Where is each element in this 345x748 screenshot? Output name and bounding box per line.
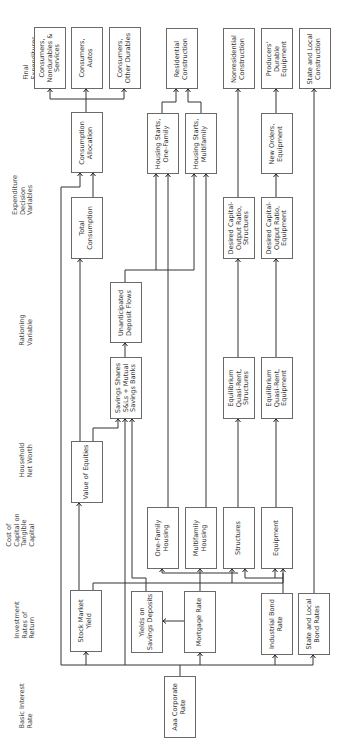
node-label: Desired Capital- Output Ratio, Equipment <box>266 202 289 255</box>
level-label: Cost of Capital on Tangible Capital <box>6 513 36 546</box>
level-label: Basic Interest Rate <box>19 684 34 729</box>
node-yields-on-savings-deposits: Yields on Savings Deposits <box>131 591 163 653</box>
node-label: State and Local Construction <box>307 33 322 84</box>
node-stock-market-yield: Stock Market Yield <box>70 590 102 652</box>
node-housing-starts-one-family: Housing Starts, One-Family <box>147 113 179 174</box>
node-equilibrium-quasi-rent-structures: Equilibrium Quasi-Rent, Structures <box>223 357 255 419</box>
node-structures: Structures <box>223 507 255 569</box>
node-label: Consumers, Autos <box>79 38 94 77</box>
node-equilibrium-quasi-rent-equipment: Equilibrium Quasi-Rent, Equipment <box>261 357 293 419</box>
node-label: Yields on Savings Deposits <box>139 594 154 651</box>
node-label: Nonresidential Construction <box>231 35 246 83</box>
level-basic-interest-rate: Basic Interest Rate <box>10 676 44 736</box>
node-housing-starts-multifamily: Housing Starts, Multifamily <box>185 113 217 174</box>
node-label: Consumption Allocation <box>79 121 94 165</box>
node-consumers-other-durables: Consumers, Other Durables <box>109 27 141 89</box>
level-rationing-variable: Rationing Variable <box>10 300 44 360</box>
node-label: One-Family Housing <box>155 519 170 556</box>
node-label: Structures <box>235 521 243 555</box>
level-label: Investment Rates of Return <box>14 601 37 638</box>
node-value-of-equities: Value of Equities <box>71 441 103 503</box>
level-label: Rationing Variable <box>19 314 34 345</box>
node-nonresidential-construction: Nonresidential Construction <box>223 28 255 89</box>
flow-diagram: Final Expenditures Expenditure Decision … <box>0 0 345 748</box>
level-cost-of-capital: Cost of Capital on Tangible Capital <box>4 500 38 560</box>
node-label: New Orders, Equipment <box>269 123 284 164</box>
node-residential-construction: Residential Construction <box>166 28 198 89</box>
node-label: Unanticipated Deposit Flows <box>118 289 133 335</box>
node-consumers-autos: Consumers, Autos <box>71 27 103 89</box>
node-new-orders-equipment: New Orders, Equipment <box>261 113 293 174</box>
node-desired-ko-equipment: Desired Capital- Output Ratio, Equipment <box>261 197 293 259</box>
node-total-consumption: Total Consumption <box>71 197 103 259</box>
node-aaa-corporate-rate: Aaa Corporate Rate <box>164 676 196 738</box>
node-mortgage-rate: Mortgage Rate <box>184 591 216 653</box>
node-label: Aaa Corporate Rate <box>172 683 187 731</box>
level-household-net-worth: Household Net Worth <box>10 430 44 490</box>
node-multifamily-housing: Multifamily Housing <box>185 507 217 569</box>
node-consumers-nondurables: Consumers, Nondurables & Services <box>34 27 66 89</box>
node-one-family-housing: One-Family Housing <box>147 507 179 569</box>
node-label: Savings Shares S&Ls + Mutual Savings Ban… <box>115 363 138 413</box>
node-label: Consumers, Other Durables <box>117 33 132 83</box>
node-label: Producers' Durable Equipment <box>266 41 289 77</box>
node-label: Desired Capital- Output Ratio, Structure… <box>228 202 251 255</box>
node-label: Equilibrium Quasi-Rent, Equipment <box>266 369 289 407</box>
node-savings-shares: Savings Shares S&Ls + Mutual Savings Ban… <box>110 357 142 419</box>
node-unanticipated-deposit-flows: Unanticipated Deposit Flows <box>110 282 142 343</box>
node-industrial-bond-rate: Industrial Bond Rate <box>261 593 293 655</box>
node-equipment: Equipment <box>261 507 293 569</box>
node-label: Value of Equities <box>83 445 91 500</box>
node-desired-ko-structures: Desired Capital- Output Ratio, Structure… <box>223 197 255 259</box>
node-consumption-allocation: Consumption Allocation <box>71 112 103 173</box>
node-label: Total Consumption <box>79 206 94 250</box>
node-state-local-bond-rates: State and Local Bond Rates <box>298 593 330 655</box>
node-label: Residential Construction <box>174 38 189 80</box>
node-label: Multifamily Housing <box>193 520 208 556</box>
level-investment-rates: Investment Rates of Return <box>8 590 42 650</box>
node-label: Equipment <box>273 520 281 556</box>
node-label: Equilibrium Quasi-Rent, Structures <box>228 369 251 407</box>
level-label: Household Net Worth <box>19 443 34 478</box>
node-label: Housing Starts, Multifamily <box>193 118 208 169</box>
node-label: Consumers, Nondurables & Services <box>39 33 62 82</box>
node-label: Housing Starts, One-Family <box>155 118 170 169</box>
node-state-local-construction: State and Local Construction <box>299 28 331 89</box>
node-producers-durable-equipment: Producers' Durable Equipment <box>261 28 293 89</box>
level-label: Expenditure Decision Variables <box>12 175 35 215</box>
node-label: Industrial Bond Rate <box>269 599 284 649</box>
level-expenditure-decision: Expenditure Decision Variables <box>6 165 40 225</box>
node-label: Stock Market Yield <box>78 599 93 642</box>
node-label: State and Local Bond Rates <box>306 598 321 649</box>
node-label: Mortgage Rate <box>196 598 204 647</box>
